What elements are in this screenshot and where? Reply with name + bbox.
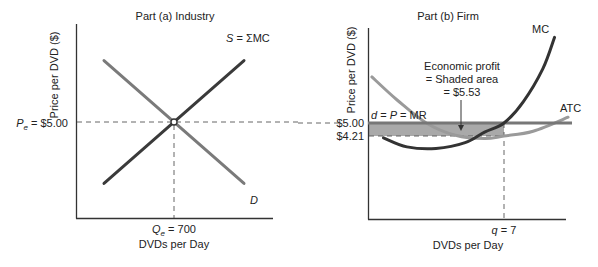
y-axis-label-firm: Price per DVD ($) xyxy=(345,27,357,114)
price-tick-label: $5.00 xyxy=(336,117,364,129)
mr-label: d = P = MR xyxy=(371,109,427,121)
chart-title-industry: Part (a) Industry xyxy=(136,10,215,22)
demand-label: D xyxy=(250,194,258,206)
supply-label: S = ΣMC xyxy=(226,32,270,44)
equilibrium-point xyxy=(171,119,177,125)
chart-title-firm: Part (b) Firm xyxy=(417,10,479,22)
profit-annotation-line-1: Economic profit xyxy=(424,60,500,72)
panel-industry: Part (a) Industry Price per DVD ($) S = … xyxy=(16,10,298,250)
x-axis-label-industry: DVDs per Day xyxy=(139,238,210,250)
profit-annotation-line-2: = Shaded area xyxy=(426,73,499,85)
equilibrium-quantity-label: Qe = 700 xyxy=(152,223,196,238)
atc-label: ATC xyxy=(560,102,581,114)
figure: Part (a) Industry Price per DVD ($) S = … xyxy=(0,0,598,267)
atc-tick-label: $4.21 xyxy=(336,130,364,142)
x-axis-label-firm: DVDs per Day xyxy=(433,239,504,251)
y-axis-label-industry: Price per DVD ($) xyxy=(48,32,60,119)
quantity-label: q = 7 xyxy=(492,224,517,236)
panel-firm: Part (b) Firm Price per DVD ($) MC ATC d… xyxy=(298,10,581,251)
equilibrium-price-label: Pe = $5.00 xyxy=(16,117,68,132)
profit-annotation-line-3: = $5.53 xyxy=(443,86,480,98)
mc-label: MC xyxy=(532,23,549,35)
